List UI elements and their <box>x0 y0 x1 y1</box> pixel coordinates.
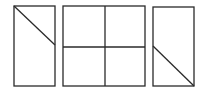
figure-2-rectangle <box>63 6 145 86</box>
figure-1-rectangle <box>14 6 55 86</box>
diagram-canvas <box>0 0 205 99</box>
figure-3-diagonal <box>153 46 194 86</box>
figure-2 <box>63 6 145 86</box>
figure-3-rectangle <box>153 7 194 86</box>
figure-1-diagonal <box>14 6 55 45</box>
figure-3 <box>153 7 194 86</box>
figure-1 <box>14 6 55 86</box>
